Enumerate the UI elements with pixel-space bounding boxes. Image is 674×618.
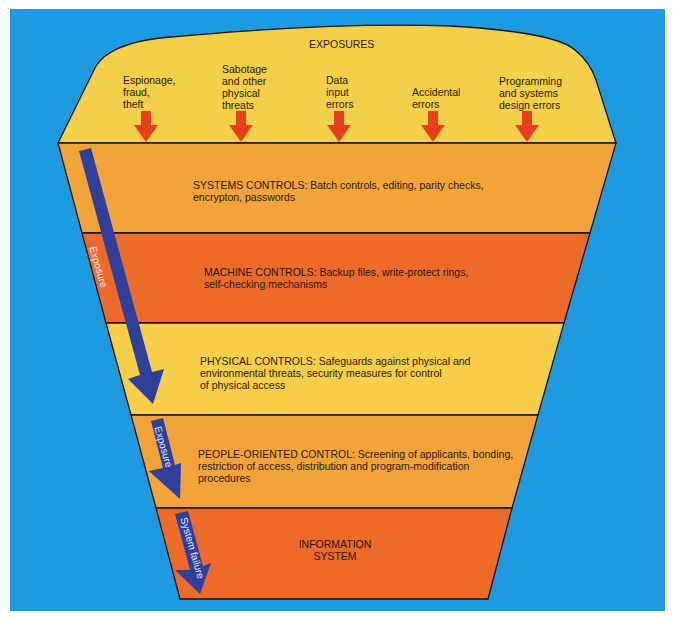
- information-system-label: INFORMATION SYSTEM: [295, 538, 375, 562]
- exposures-title: EXPOSURES: [309, 38, 374, 50]
- machine-controls-label: MACHINE CONTROLS: Backup files, write-pr…: [204, 266, 468, 290]
- exposure-control-funnel-diagram: EXPOSURES Espionage, fraud, theft Sabota…: [0, 0, 674, 618]
- people-oriented-control-label: PEOPLE-ORIENTED CONTROL: Screening of ap…: [198, 448, 513, 484]
- exposure-label-programming: Programming and systems design errors: [499, 75, 562, 111]
- exposure-label-accidental: Accidental errors: [412, 86, 460, 110]
- exposure-label-data-input: Data input errors: [326, 74, 353, 110]
- systems-controls-label: SYSTEMS CONTROLS: Batch controls, editin…: [193, 179, 484, 203]
- exposure-label-espionage: Espionage, fraud, theft: [123, 74, 176, 110]
- exposure-label-sabotage: Sabotage and other physical threats: [222, 63, 267, 111]
- physical-controls-label: PHYSICAL CONTROLS: Safeguards against ph…: [200, 355, 470, 391]
